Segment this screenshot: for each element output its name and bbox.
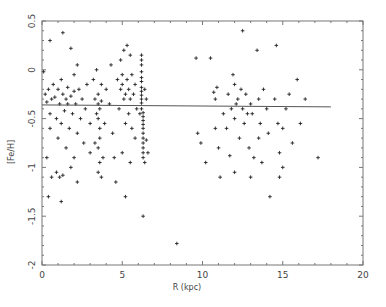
data-point [140, 93, 144, 97]
x-tick-label: 5 [119, 270, 125, 280]
y-tick-label: -0.5 [27, 110, 37, 128]
data-point [61, 173, 65, 177]
data-point [59, 200, 63, 204]
data-point [76, 131, 80, 135]
data-point [120, 83, 124, 87]
data-point [130, 127, 134, 131]
x-tick-label: 0 [39, 270, 45, 280]
data-point [98, 127, 102, 131]
data-point [100, 99, 104, 103]
data-point [55, 117, 59, 121]
data-point [69, 94, 73, 98]
data-point [100, 83, 104, 87]
data-point [63, 109, 67, 113]
data-point [140, 89, 144, 93]
data-point [141, 146, 145, 150]
data-point [101, 156, 105, 160]
x-tick-label: 15 [277, 270, 288, 280]
y-axis-tick-labels: -2-1.5-1-0.500.5 [27, 14, 37, 270]
data-point [125, 78, 129, 82]
data-point [141, 151, 145, 155]
data-point [140, 107, 144, 111]
y-tick-label: 0 [27, 67, 37, 73]
data-point [56, 88, 60, 92]
data-point [50, 175, 54, 179]
data-point [120, 151, 124, 155]
data-point [141, 214, 145, 218]
data-point [175, 242, 179, 246]
data-point [82, 141, 86, 145]
data-points [42, 29, 320, 245]
data-point [132, 92, 136, 96]
data-point [61, 31, 65, 35]
data-point [233, 117, 237, 121]
data-point [128, 97, 132, 101]
data-point [212, 90, 216, 94]
data-point [291, 141, 295, 145]
y-tick-label: -1.5 [27, 207, 37, 225]
data-point [98, 107, 102, 111]
x-axis-label: R (kpc) [173, 283, 201, 292]
data-point [141, 141, 145, 145]
data-point [119, 88, 123, 92]
data-point [98, 136, 102, 140]
data-point [80, 97, 84, 101]
data-point [249, 102, 253, 106]
data-point [255, 48, 259, 52]
data-point [104, 88, 108, 92]
data-point [284, 107, 288, 111]
data-point [276, 122, 280, 126]
data-point [143, 161, 147, 165]
data-point [125, 44, 129, 48]
data-point [258, 122, 262, 126]
data-point [218, 175, 222, 179]
data-point [246, 112, 250, 116]
data-point [47, 88, 51, 92]
data-point [61, 92, 65, 96]
data-point [45, 100, 49, 104]
data-point [122, 48, 126, 52]
data-point [76, 63, 80, 67]
data-point [145, 97, 149, 101]
data-point [111, 131, 115, 135]
data-point [252, 156, 256, 160]
data-point [59, 78, 63, 82]
data-point [194, 56, 198, 60]
data-point [128, 53, 132, 57]
x-axis-tick-labels: 05101520 [39, 270, 369, 280]
data-point [93, 141, 97, 145]
data-point [141, 127, 145, 131]
fit-line [42, 105, 331, 107]
data-point [88, 151, 92, 155]
data-point [238, 136, 242, 140]
data-point [96, 117, 100, 121]
data-point [76, 180, 80, 184]
data-point [249, 175, 253, 179]
data-point [267, 131, 271, 135]
data-point [268, 195, 272, 199]
data-point [204, 161, 208, 165]
data-point [234, 102, 238, 106]
data-point [79, 117, 83, 121]
data-point [67, 127, 71, 131]
data-point [55, 170, 59, 174]
data-point [222, 112, 226, 116]
data-point [112, 156, 116, 160]
data-point [141, 115, 145, 119]
data-point [146, 151, 150, 155]
data-point [295, 78, 299, 82]
data-point [140, 86, 144, 90]
x-tick-label: 20 [357, 270, 369, 280]
data-point [262, 88, 266, 92]
data-point [92, 78, 96, 82]
data-point [140, 58, 144, 62]
data-point [93, 97, 97, 101]
data-point [64, 146, 68, 150]
data-point [95, 68, 99, 72]
data-point [48, 127, 52, 131]
data-point [58, 175, 62, 179]
data-point [48, 39, 52, 43]
data-point [95, 112, 99, 116]
data-point [299, 122, 303, 126]
data-point [230, 107, 234, 111]
